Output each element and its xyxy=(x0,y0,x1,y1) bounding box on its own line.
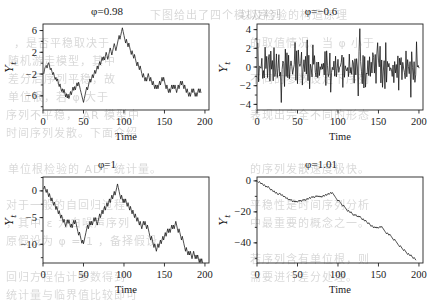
y-tick-label: 2 xyxy=(32,47,37,58)
y-tick-label: 0 xyxy=(246,62,251,73)
x-axis-label: Time xyxy=(115,131,137,142)
x-tick-label: 150 xyxy=(157,269,173,280)
x-axis-label: Time xyxy=(115,284,137,295)
plot-area-phi-0-98: 050100150200−6−226TimeYt xyxy=(0,0,214,153)
x-tick-label: 50 xyxy=(78,116,89,127)
y-tick-label: 0 xyxy=(246,175,251,186)
y-tick-label: −4 xyxy=(240,99,252,110)
panel-phi-neg-0-6: φ=−0.6 050100150200−4−2024TimeYt xyxy=(214,0,428,153)
plot-frame xyxy=(43,177,209,263)
y-tick-label: −10 xyxy=(21,239,37,250)
y-tick-label: −40 xyxy=(235,237,251,248)
x-tick-label: 0 xyxy=(40,116,45,127)
x-tick-label: 100 xyxy=(330,116,346,127)
x-tick-label: 0 xyxy=(254,269,259,280)
x-tick-label: 50 xyxy=(292,116,303,127)
x-tick-label: 200 xyxy=(197,269,213,280)
x-axis-label: Time xyxy=(329,284,351,295)
x-tick-label: 150 xyxy=(157,116,173,127)
y-tick-label: −2 xyxy=(26,69,37,80)
y-axis-label: Yt xyxy=(3,214,18,226)
series-line xyxy=(44,28,201,103)
y-axis-label-text: Yt xyxy=(217,61,232,73)
plot-area-phi-neg-0-6: 050100150200−4−2024TimeYt xyxy=(214,0,428,153)
x-tick-label: 50 xyxy=(292,269,303,280)
x-tick-label: 100 xyxy=(330,269,346,280)
y-tick-label: −6 xyxy=(26,90,37,101)
series-line xyxy=(258,181,416,259)
x-tick-label: 200 xyxy=(411,269,427,280)
y-axis-label-text: Yt xyxy=(3,214,18,226)
x-tick-label: 100 xyxy=(116,116,132,127)
x-axis-label: Time xyxy=(329,131,351,142)
panel-phi-1-01: φ=1.01 050100150200−40−200TimeYt xyxy=(214,153,428,306)
plot-frame xyxy=(43,24,209,110)
y-tick-label: −5 xyxy=(26,212,37,223)
y-axis-label-text: Yt xyxy=(217,214,232,226)
y-tick-label: 4 xyxy=(246,24,252,35)
plot-frame xyxy=(257,177,423,263)
y-tick-label: 2 xyxy=(246,43,251,54)
y-tick-label: 0 xyxy=(32,185,37,196)
series-line xyxy=(44,184,203,263)
x-tick-label: 0 xyxy=(254,116,259,127)
y-tick-label: −2 xyxy=(240,80,251,91)
panel-phi-0-98: φ=0.98 050100150200−6−226TimeYt xyxy=(0,0,214,153)
panel-phi-1: φ=1 050100150200−10−50TimeYt xyxy=(0,153,214,306)
figure-four-ar1-simulations: φ=0.98 050100150200−6−226TimeYt φ=−0.6 0… xyxy=(0,0,428,307)
x-tick-label: 150 xyxy=(371,269,387,280)
y-tick-label: 6 xyxy=(32,25,37,36)
plot-area-phi-1: 050100150200−10−50TimeYt xyxy=(0,153,214,306)
y-axis-label: Yt xyxy=(3,61,18,73)
x-tick-label: 100 xyxy=(116,269,132,280)
plot-area-phi-1-01: 050100150200−40−200TimeYt xyxy=(214,153,428,306)
y-axis-label: Yt xyxy=(217,61,232,73)
y-tick-label: −20 xyxy=(235,206,251,217)
x-tick-label: 150 xyxy=(371,116,387,127)
x-tick-label: 50 xyxy=(78,269,89,280)
x-tick-label: 0 xyxy=(40,269,45,280)
y-axis-label: Yt xyxy=(217,214,232,226)
y-axis-label-text: Yt xyxy=(3,61,18,73)
x-tick-label: 200 xyxy=(411,116,427,127)
series-line xyxy=(258,29,419,103)
x-tick-label: 200 xyxy=(197,116,213,127)
